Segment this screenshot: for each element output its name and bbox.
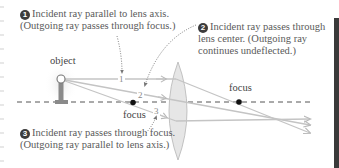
number-badge-2: 2 bbox=[198, 23, 208, 33]
number-badge-1: 1 bbox=[20, 10, 30, 20]
caption-ray-1: 1Incident ray parallel to lens axis. (Ou… bbox=[20, 8, 175, 32]
caption-2-line-3: continues undeflected.) bbox=[198, 45, 325, 57]
caption-1-line-2: (Outgoing ray passes through focus.) bbox=[20, 20, 175, 32]
object-label: object bbox=[50, 55, 76, 66]
ray-number-2: 2 bbox=[138, 90, 143, 100]
caption-3-line-1: Incident ray passes through focus. bbox=[32, 127, 175, 138]
caption-3-line-2: (Outgoing ray parallel to lens axis.) bbox=[20, 139, 175, 151]
caption-2-line-2: lens center. (Outgoing ray bbox=[198, 33, 325, 45]
caption-2-line-1: Incident ray passes through bbox=[210, 21, 325, 32]
leader-arrow-2 bbox=[145, 25, 196, 85]
caption-ray-2: 2Incident ray passes through lens center… bbox=[198, 21, 325, 57]
focal-point-dot-icon-left bbox=[130, 100, 136, 106]
number-badge-3: 3 bbox=[20, 129, 30, 139]
leader-arrow-1 bbox=[117, 36, 122, 72]
focus-label-left: focus bbox=[123, 109, 146, 120]
caption-1-line-1: Incident ray parallel to lens axis. bbox=[32, 8, 169, 19]
focus-label-right: focus bbox=[229, 82, 252, 93]
ray-number-1: 1 bbox=[119, 74, 124, 84]
caption-ray-3: 3Incident ray passes through focus. (Out… bbox=[20, 127, 175, 151]
ray-number-3: 3 bbox=[154, 106, 159, 116]
focal-point-dot-icon-right bbox=[236, 99, 242, 105]
